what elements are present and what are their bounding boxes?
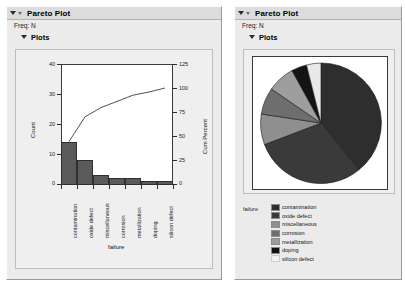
- y2-tick-label: 75: [179, 109, 185, 115]
- legend-item[interactable]: doping: [271, 246, 317, 255]
- legend-item[interactable]: corrosion: [271, 229, 317, 238]
- y2-tick: [173, 136, 177, 137]
- legend-item[interactable]: oxide defect: [271, 212, 317, 221]
- disclosure-triangle-small-icon[interactable]: [246, 12, 250, 15]
- cumulative-percent-line: [61, 64, 173, 185]
- freq-label: Freq: N: [242, 22, 264, 29]
- legend-swatch-icon: [271, 221, 280, 228]
- page-title: Pareto Plot: [255, 9, 298, 18]
- legend-swatch-icon: [271, 238, 280, 245]
- legend-label: corrosion: [282, 230, 305, 236]
- plots-label: Plots: [31, 33, 49, 42]
- freq-row: Freq: N: [235, 20, 401, 31]
- y2-tick-label: 50: [179, 133, 185, 139]
- legend-item[interactable]: contamination: [271, 203, 317, 212]
- y2-tick-label: 0: [179, 180, 182, 186]
- y2-tick-label: 25: [179, 157, 185, 163]
- plots-label: Plots: [259, 33, 277, 42]
- x-category-label: metallization: [136, 207, 142, 238]
- pareto-chart-frame: 40 30 20 10 0 Count 125 100 75 50 25 0: [15, 49, 213, 269]
- x-tick: [93, 185, 94, 189]
- panel-title-bar[interactable]: Pareto Plot: [235, 7, 401, 20]
- y-tick-label: 20: [36, 121, 55, 127]
- y-tick-label: 0: [36, 180, 55, 186]
- y2-tick: [173, 160, 177, 161]
- x-category-label: miscellaneous: [104, 203, 110, 238]
- y-axis-title: Count: [30, 122, 36, 138]
- plots-section-header[interactable]: Plots: [235, 31, 401, 43]
- x-tick: [77, 185, 78, 189]
- x-category-label: doping: [152, 221, 158, 238]
- page-title: Pareto Plot: [27, 9, 70, 18]
- legend-label: metallization: [282, 239, 313, 245]
- y2-axis-title: Cum Percent: [202, 119, 208, 154]
- legend-label: doping: [282, 247, 299, 253]
- x-tick: [109, 185, 110, 189]
- x-tick: [125, 185, 126, 189]
- x-category-label: oxide defect: [88, 208, 94, 238]
- legend-swatch-icon: [271, 204, 280, 211]
- y-tick-label: 40: [36, 61, 55, 67]
- pareto-plot-panel-left: Pareto Plot Freq: N Plots 40 30 20 10 0 …: [6, 6, 222, 280]
- legend-swatch-icon: [271, 255, 280, 262]
- disclosure-triangle-open-icon[interactable]: [249, 35, 255, 39]
- legend-title: failure: [243, 206, 258, 212]
- disclosure-triangle-open-icon[interactable]: [21, 35, 27, 39]
- legend-swatch-icon: [271, 247, 280, 254]
- y2-tick-label: 100: [179, 85, 188, 91]
- disclosure-triangle-open-icon[interactable]: [238, 11, 244, 15]
- x-tick: [173, 185, 174, 189]
- legend-label: oxide defect: [282, 213, 312, 219]
- legend-label: contamination: [282, 204, 316, 210]
- disclosure-triangle-small-icon[interactable]: [18, 12, 22, 15]
- y2-tick: [173, 64, 177, 65]
- x-category-label: corrosion: [120, 215, 126, 238]
- disclosure-triangle-open-icon[interactable]: [10, 11, 16, 15]
- legend-label: silicon defect: [282, 256, 314, 262]
- legend-swatch-icon: [271, 212, 280, 219]
- pie-chart-frame: [243, 49, 395, 194]
- y2-tick: [173, 88, 177, 89]
- panel-title-bar[interactable]: Pareto Plot: [7, 7, 221, 20]
- x-tick: [141, 185, 142, 189]
- x-axis-title: failure: [108, 244, 124, 250]
- legend-item[interactable]: silicon defect: [271, 255, 317, 264]
- y2-tick: [173, 112, 177, 113]
- legend-swatch-icon: [271, 230, 280, 237]
- y2-tick-label: 125: [179, 61, 188, 67]
- legend-item[interactable]: metallization: [271, 237, 317, 246]
- legend-item[interactable]: miscellaneous: [271, 220, 317, 229]
- x-category-label: contamination: [72, 204, 78, 238]
- pie-chart[interactable]: [258, 58, 384, 188]
- y-tick-label: 10: [36, 151, 55, 157]
- x-category-label: silicon defect: [168, 206, 174, 238]
- x-tick: [157, 185, 158, 189]
- y-tick-label: 30: [36, 91, 55, 97]
- pareto-plot-panel-right: Pareto Plot Freq: N Plots: [234, 6, 402, 280]
- freq-label: Freq: N: [14, 22, 36, 29]
- screenshot-root: Pareto Plot Freq: N Plots 40 30 20 10 0 …: [0, 0, 405, 299]
- legend-label: miscellaneous: [282, 221, 317, 227]
- freq-row: Freq: N: [7, 20, 221, 31]
- plots-section-header[interactable]: Plots: [7, 31, 221, 43]
- x-tick: [61, 185, 62, 189]
